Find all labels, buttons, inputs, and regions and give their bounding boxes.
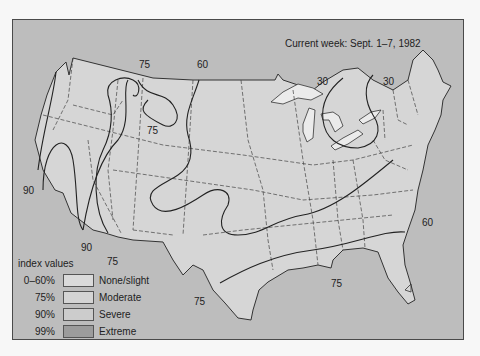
contour-label: 30 [383, 76, 394, 87]
contour-label: 75 [147, 125, 158, 136]
drought-index-map: Current week: Sept. 1–7, 1982 75 60 30 3… [12, 19, 464, 340]
legend-item-none-slight: 0–60% None/slight [13, 274, 213, 288]
legend-item-extreme: 99% Extreme [13, 325, 213, 339]
contour-label: 60 [422, 217, 433, 228]
contour-label: 75 [139, 59, 150, 70]
contour-label: 60 [197, 59, 208, 70]
legend-swatch [63, 308, 94, 321]
legend-label: Severe [99, 309, 131, 320]
legend-item-severe: 90% Severe [13, 308, 213, 322]
legend-pct: 90% [35, 309, 55, 320]
legend-pct: 0–60% [24, 275, 55, 286]
legend-label: None/slight [99, 275, 149, 286]
current-week-label: Current week: Sept. 1–7, 1982 [285, 38, 421, 49]
legend-pct: 99% [35, 326, 55, 337]
contour-label: 30 [317, 76, 328, 87]
contour-label: 75 [331, 278, 342, 289]
contour-label: 75 [107, 256, 118, 267]
legend-label: Extreme [99, 326, 136, 337]
legend-swatch [63, 291, 94, 304]
legend-swatch [63, 274, 94, 287]
legend-swatch [63, 325, 94, 338]
contour-label: 90 [23, 185, 34, 196]
legend-title: index values [18, 258, 74, 269]
legend-pct: 75% [35, 292, 55, 303]
legend-label: Moderate [99, 292, 141, 303]
contour-label: 90 [81, 242, 92, 253]
legend-item-moderate: 75% Moderate [13, 291, 213, 305]
